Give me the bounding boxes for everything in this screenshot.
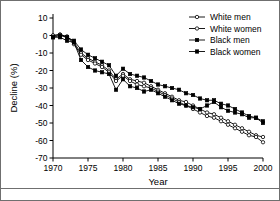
series-3-point	[142, 90, 145, 93]
series-3-point	[107, 72, 110, 75]
x-tick-label: 2000	[254, 163, 273, 173]
series-2-point	[219, 102, 222, 105]
series-2-point	[79, 48, 82, 51]
series-2-point	[163, 85, 166, 88]
series-2-point	[65, 36, 68, 39]
series-3-point	[93, 69, 96, 72]
series-3-point	[261, 120, 264, 123]
series-3-point	[135, 86, 138, 89]
series-3-point	[240, 113, 243, 116]
series-3-point	[170, 99, 173, 102]
series-3-point	[205, 104, 208, 107]
series-2-point	[184, 92, 187, 95]
series-3-point	[128, 85, 131, 88]
series-0-point	[219, 116, 222, 119]
series-3-point	[156, 92, 159, 95]
series-1-point	[142, 85, 145, 88]
series-3-point	[233, 111, 236, 114]
series-2-point	[128, 72, 131, 75]
legend-marker-2	[195, 38, 198, 41]
series-1-point	[233, 127, 236, 130]
series-3-point	[198, 107, 201, 110]
x-tick-label: 1970	[44, 163, 63, 173]
series-1-point	[86, 58, 89, 61]
series-0-point	[142, 81, 145, 84]
series-2-point	[135, 74, 138, 77]
series-1-point	[219, 120, 222, 123]
series-3-point	[212, 100, 215, 103]
legend-marker-3	[195, 50, 198, 53]
x-tick-label: 1975	[79, 163, 98, 173]
series-1-point	[198, 111, 201, 114]
series-3-point	[149, 88, 152, 91]
x-tick-label: 1995	[219, 163, 238, 173]
legend-label-2: Black men	[210, 35, 250, 45]
series-1-point	[205, 114, 208, 117]
series-3-point	[184, 104, 187, 107]
legend-marker-1	[195, 27, 198, 30]
series-0-point	[212, 113, 215, 116]
series-3-point	[226, 109, 229, 112]
series-3-point	[254, 116, 257, 119]
series-1-point	[212, 116, 215, 119]
series-2-point	[156, 83, 159, 86]
y-tick-label: -70	[35, 153, 48, 163]
series-3-point	[177, 102, 180, 105]
series-1-point	[254, 135, 257, 138]
series-2-point	[198, 97, 201, 100]
series-0-point	[205, 111, 208, 114]
series-3-point	[51, 36, 54, 39]
x-axis-title: Year	[148, 176, 167, 187]
series-0-point	[184, 100, 187, 103]
x-tick-label: 1980	[114, 163, 133, 173]
y-tick-label: -60	[35, 136, 48, 146]
series-2-point	[191, 93, 194, 96]
legend-label-3: Black women	[210, 47, 261, 57]
series-3-point	[86, 65, 89, 68]
series-2-point	[107, 64, 110, 67]
x-tick-label: 1990	[184, 163, 203, 173]
series-2-point	[233, 107, 236, 110]
y-axis-title: Decline (%)	[8, 63, 19, 112]
series-1-point	[128, 79, 131, 82]
y-tick-label: -40	[35, 101, 48, 111]
series-1-point	[261, 141, 264, 144]
x-tick-label: 1985	[149, 163, 168, 173]
y-tick-label: 10	[38, 13, 48, 23]
series-2-point	[121, 67, 124, 70]
series-1-point	[135, 83, 138, 86]
series-0-point	[261, 135, 264, 138]
series-3-point	[100, 71, 103, 74]
series-0-point	[240, 127, 243, 130]
series-0-point	[226, 120, 229, 123]
series-3-point	[72, 41, 75, 44]
series-2-point	[114, 74, 117, 77]
series-2-point	[226, 104, 229, 107]
y-tick-label: -50	[35, 118, 48, 128]
series-3-point	[163, 95, 166, 98]
series-3-point	[121, 78, 124, 81]
series-1-point	[100, 65, 103, 68]
series-2-point	[93, 57, 96, 60]
series-2-point	[177, 88, 180, 91]
series-3-point	[79, 58, 82, 61]
figure-footer-divider	[1, 188, 279, 189]
series-3-point	[114, 88, 117, 91]
series-2-point	[170, 86, 173, 89]
series-2-point	[149, 79, 152, 82]
series-3-point	[65, 39, 68, 42]
series-3-point	[191, 106, 194, 109]
series-0-point	[135, 79, 138, 82]
figure-panel: 100-10-20-30-40-50-60-701970197519801985…	[0, 0, 280, 201]
decline-line-chart: 100-10-20-30-40-50-60-701970197519801985…	[1, 1, 280, 201]
series-2-point	[100, 60, 103, 63]
series-2-point	[205, 99, 208, 102]
series-1-point	[93, 62, 96, 65]
series-2-point	[142, 76, 145, 79]
series-3-point	[247, 116, 250, 119]
series-0-point	[247, 130, 250, 133]
series-1-point	[247, 134, 250, 137]
y-tick-label: -10	[35, 48, 48, 58]
y-tick-label: -20	[35, 66, 48, 76]
series-1-point	[121, 74, 124, 77]
